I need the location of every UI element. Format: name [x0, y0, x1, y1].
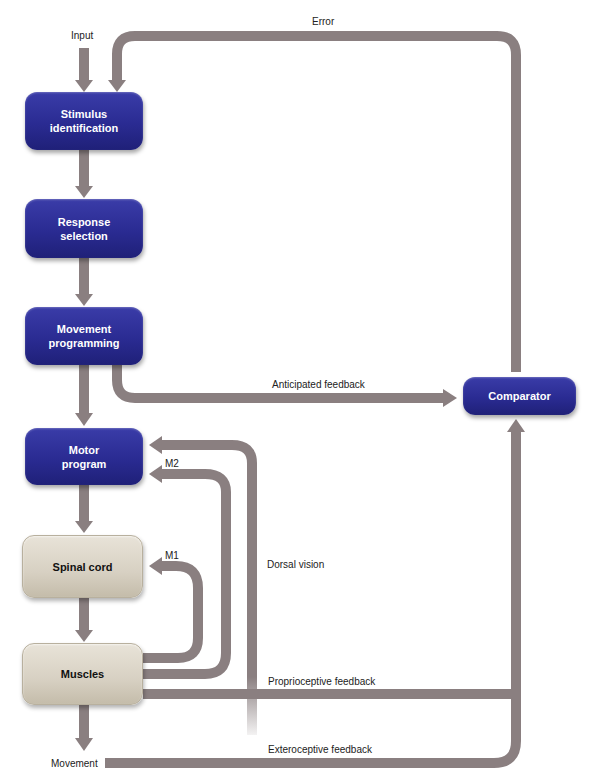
input-label: Input [71, 30, 93, 41]
arrowhead-m2 [149, 465, 162, 483]
box-line: identification [50, 121, 118, 135]
arrowhead-dorsal [149, 436, 162, 454]
arrowhead-input [75, 80, 93, 92]
dorsal-vision-label: Dorsal vision [267, 559, 324, 570]
motor-program-box: Motorprogram [25, 428, 143, 485]
proprioceptive-feedback-label: Proprioceptive feedback [268, 676, 375, 687]
m2-label: M2 [165, 458, 179, 469]
box-line: program [62, 457, 107, 471]
arrowhead-error [108, 80, 126, 92]
box-line: programming [49, 336, 120, 350]
arrowhead-comparator-bottom [507, 419, 525, 432]
arrowhead-m1 [149, 557, 162, 575]
box-line: selection [58, 229, 111, 243]
m1-arrow [143, 566, 198, 658]
exteroceptive-feedback-arrow [105, 430, 516, 763]
m1-label: M1 [165, 550, 179, 561]
movement-programming-box: Movementprogramming [25, 307, 143, 365]
box-line: Response [58, 215, 111, 229]
box-line: Movement [49, 322, 120, 336]
anticipated-feedback-label: Anticipated feedback [272, 379, 365, 390]
stimulus-identification-box: Stimulusidentification [25, 92, 143, 150]
arrowhead-anticipated [443, 389, 457, 407]
box-line: Muscles [61, 667, 104, 681]
comparator-box: Comparator [463, 377, 576, 415]
m2-arrow [143, 474, 226, 674]
motor-control-diagram: Input Error Anticipated feedback M2 M1 D… [0, 0, 589, 782]
muscles-box: Muscles [22, 643, 143, 705]
error-label: Error [312, 16, 334, 27]
box-line: Stimulus [50, 107, 118, 121]
spinal-cord-box: Spinal cord [22, 535, 143, 598]
exteroceptive-feedback-label: Exteroceptive feedback [268, 744, 372, 755]
box-line: Spinal cord [53, 560, 113, 574]
response-selection-box: Responseselection [25, 199, 143, 258]
box-line: Motor [62, 443, 107, 457]
movement-label: Movement [51, 758, 98, 769]
error-arrow [117, 36, 516, 372]
box-line: Comparator [488, 389, 550, 403]
